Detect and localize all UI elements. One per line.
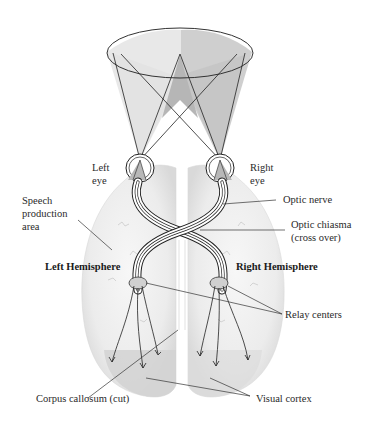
label-visual-cortex: Visual cortex — [256, 392, 312, 405]
right-eye — [206, 154, 234, 182]
label-optic-nerve: Optic nerve — [283, 193, 332, 206]
label-optic-chiasma: Optic chiasma (cross over) — [291, 218, 351, 244]
label-left-hemisphere: Left Hemisphere — [45, 260, 120, 273]
label-left-eye: Left eye — [92, 161, 110, 187]
label-relay-centers: Relay centers — [285, 308, 342, 321]
visual-pathway-diagram: Left eye Right eye Speech production are… — [0, 0, 376, 423]
visual-field — [107, 28, 253, 160]
label-corpus-callosum: Corpus callosum (cut) — [36, 392, 129, 405]
left-eye — [126, 154, 154, 182]
label-speech-production-area: Speech production area — [22, 194, 68, 233]
label-right-eye: Right eye — [250, 161, 273, 187]
label-right-hemisphere: Right Hemisphere — [236, 260, 318, 273]
